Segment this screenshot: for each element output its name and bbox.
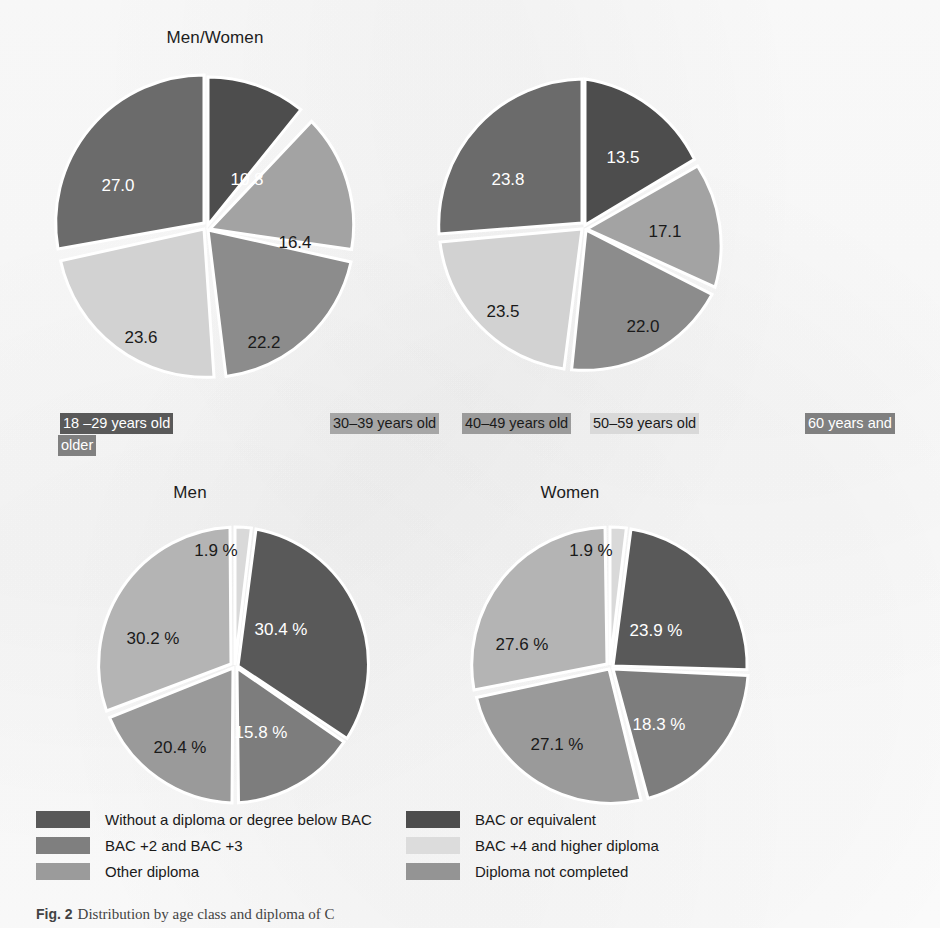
legend-entry-diploma-not-completed[interactable]: Diploma not completed	[406, 863, 786, 880]
pie-label-women-2: 18.3 %	[633, 715, 686, 734]
pie-slice-without-diploma	[613, 529, 747, 670]
legend-swatch-bac2-bac3	[36, 837, 90, 854]
legend-entry-bac-equivalent[interactable]: BAC or equivalent	[406, 811, 786, 828]
pie-svg-top-right: 13.5 17.1 22.0 23.5 23.8	[415, 55, 755, 395]
legend-swatch-bac-equivalent	[406, 811, 460, 828]
legend-swatch-other-diploma	[36, 863, 90, 880]
legend-item-50-59-wrap: 50–59 years old	[590, 414, 699, 433]
legend-row: Other diploma Diploma not completed	[36, 858, 796, 884]
legend-label-other-diploma: Other diploma	[105, 863, 199, 880]
pie-slice-60-plus	[439, 79, 582, 234]
pie-label-top-left-2: 22.2	[247, 333, 280, 352]
pie-label-women-0: 1.9 %	[569, 541, 612, 560]
pie-svg-bottom-left: 1.9 % 30.4 % 15.8 % 20.4 % 30.2 %	[75, 510, 395, 810]
chart-title-men: Men	[110, 483, 270, 503]
chart-title-women: Women	[480, 483, 660, 503]
legend-item-30-39-wrap: 30–39 years old	[330, 414, 439, 433]
figure-caption-text: Distribution by age class and diploma of…	[78, 906, 335, 922]
pie-label-women-3: 27.1 %	[531, 735, 584, 754]
legend-entry-without-diploma[interactable]: Without a diploma or degree below BAC	[36, 811, 406, 828]
pie-label-men-3: 20.4 %	[154, 738, 207, 757]
pie-slice-50-59	[440, 229, 582, 369]
pie-label-men-4: 30.2 %	[127, 629, 180, 648]
legend-entry-other-diploma[interactable]: Other diploma	[36, 863, 406, 880]
legend-item-40-49[interactable]: 40–49 years old	[462, 413, 571, 434]
pie-label-men-0: 1.9 %	[194, 541, 237, 560]
pie-label-top-left-3: 23.6	[124, 328, 157, 347]
pie-chart-bottom-right: 1.9 % 23.9 % 18.3 % 27.1 % 27.6 %	[460, 510, 780, 810]
legend-item-older[interactable]: older	[58, 435, 96, 456]
legend-item-60-plus-wrap: 60 years and	[805, 414, 895, 433]
legend-label-bac2-bac3: BAC +2 and BAC +3	[105, 837, 243, 854]
pie-label-top-left-4: 27.0	[101, 176, 134, 195]
pie-label-women-1: 23.9 %	[630, 621, 683, 640]
legend-row: Without a diploma or degree below BAC BA…	[36, 806, 796, 832]
pie-label-top-right-4: 23.8	[491, 170, 524, 189]
chart-title-men-women: Men/Women	[95, 28, 335, 48]
legend-top-continuation: older	[58, 436, 96, 455]
pie-label-top-left-1: 16.4	[278, 233, 311, 252]
pie-label-women-4: 27.6 %	[496, 635, 549, 654]
pie-chart-bottom-left: 1.9 % 30.4 % 15.8 % 20.4 % 30.2 %	[75, 510, 395, 810]
legend-swatch-bac4-higher	[406, 837, 460, 854]
legend-item-18-29[interactable]: 18 –29 years old	[60, 413, 173, 434]
pie-label-top-right-2: 22.0	[626, 317, 659, 336]
legend-item-50-59[interactable]: 50–59 years old	[590, 413, 699, 434]
legend-bottom-diplomas: Without a diploma or degree below BAC BA…	[36, 806, 796, 884]
pie-label-top-right-0: 13.5	[606, 148, 639, 167]
legend-entry-bac2-bac3[interactable]: BAC +2 and BAC +3	[36, 837, 406, 854]
pie-label-men-2: 15.8 %	[235, 723, 288, 742]
pie-label-top-left-0: 10.8	[230, 170, 263, 189]
pie-svg-bottom-right: 1.9 % 23.9 % 18.3 % 27.1 % 27.6 %	[460, 510, 780, 810]
pie-slice-60-plus	[56, 75, 204, 249]
legend-item-60-plus[interactable]: 60 years and	[805, 413, 895, 434]
pie-slice-50-59	[61, 229, 214, 377]
pie-chart-top-left: 10.8 16.4 22.2 23.6 27.0	[28, 55, 378, 395]
pie-label-men-1: 30.4 %	[255, 620, 308, 639]
legend-label-diploma-not-completed: Diploma not completed	[475, 863, 628, 880]
pie-chart-top-right: 13.5 17.1 22.0 23.5 23.8	[415, 55, 755, 395]
pie-label-top-right-1: 17.1	[648, 222, 681, 241]
legend-label-without-diploma: Without a diploma or degree below BAC	[105, 811, 372, 828]
legend-label-bac4-higher: BAC +4 and higher diploma	[475, 837, 659, 854]
legend-item-30-39[interactable]: 30–39 years old	[330, 413, 439, 434]
figure-number: Fig. 2	[36, 906, 73, 922]
legend-row: BAC +2 and BAC +3 BAC +4 and higher dipl…	[36, 832, 796, 858]
legend-entry-bac4-higher[interactable]: BAC +4 and higher diploma	[406, 837, 786, 854]
legend-swatch-without-diploma	[36, 811, 90, 828]
figure-caption: Fig. 2Distribution by age class and dipl…	[36, 906, 916, 923]
legend-item-40-49-wrap: 40–49 years old	[462, 414, 571, 433]
legend-top-age-classes: 18 –29 years old	[60, 414, 173, 433]
legend-label-bac-equivalent: BAC or equivalent	[475, 811, 596, 828]
pie-label-top-right-3: 23.5	[486, 302, 519, 321]
legend-swatch-diploma-not-completed	[406, 863, 460, 880]
pie-svg-top-left: 10.8 16.4 22.2 23.6 27.0	[28, 55, 378, 395]
